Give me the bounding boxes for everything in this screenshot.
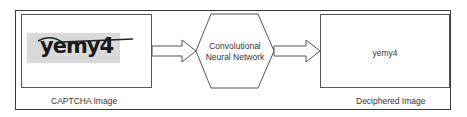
deciphered-image-label: Deciphered Image (356, 96, 425, 106)
arrow-right-icon (152, 40, 196, 62)
deciphered-image-box: yemy4 (320, 14, 450, 88)
cnn-label-line1: Convolutional (196, 41, 274, 52)
captcha-noise-line (38, 38, 133, 42)
deciphered-text: yemy4 (321, 48, 449, 58)
cnn-label: Convolutional Neural Network (196, 41, 274, 63)
arrow-right-icon (274, 40, 320, 62)
captcha-image-label: CAPTCHA Image (51, 96, 117, 106)
cnn-label-line2: Neural Network (196, 52, 274, 63)
